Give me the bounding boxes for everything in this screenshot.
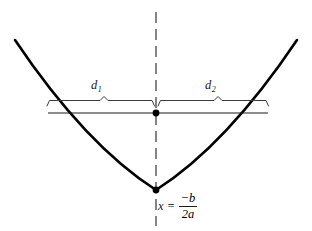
figure-canvas [0,0,312,231]
vertex-dot [153,187,160,194]
parabola-figure: d1 d2 x = −b 2a [0,0,312,231]
chord-midpoint-dot [153,110,160,117]
